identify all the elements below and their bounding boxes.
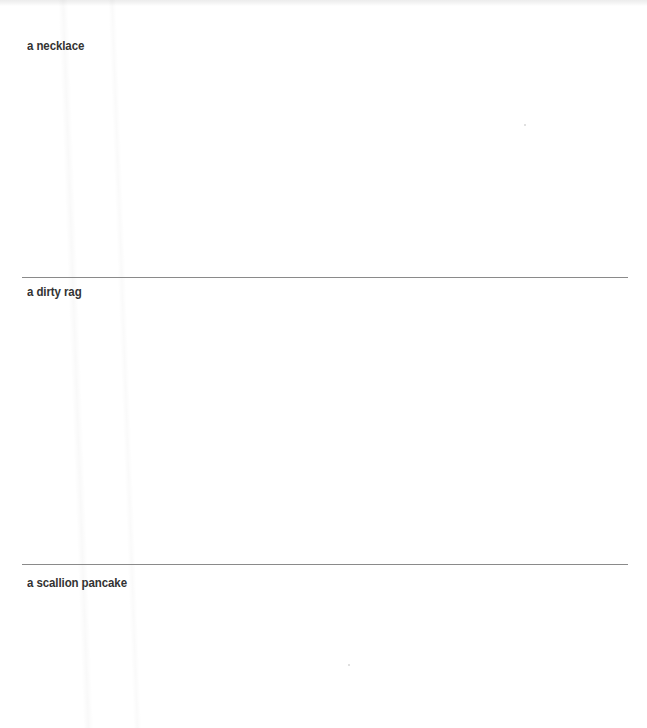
section-scallion-pancake: a scallion pancake: [0, 565, 647, 728]
section-dirty-rag: a dirty rag: [0, 278, 647, 564]
dust-speck: [348, 664, 350, 666]
section-label: a dirty rag: [27, 285, 82, 299]
section-necklace: a necklace: [0, 0, 647, 277]
section-label: a scallion pancake: [27, 576, 127, 590]
dust-speck: [524, 124, 526, 126]
section-label: a necklace: [27, 39, 84, 53]
